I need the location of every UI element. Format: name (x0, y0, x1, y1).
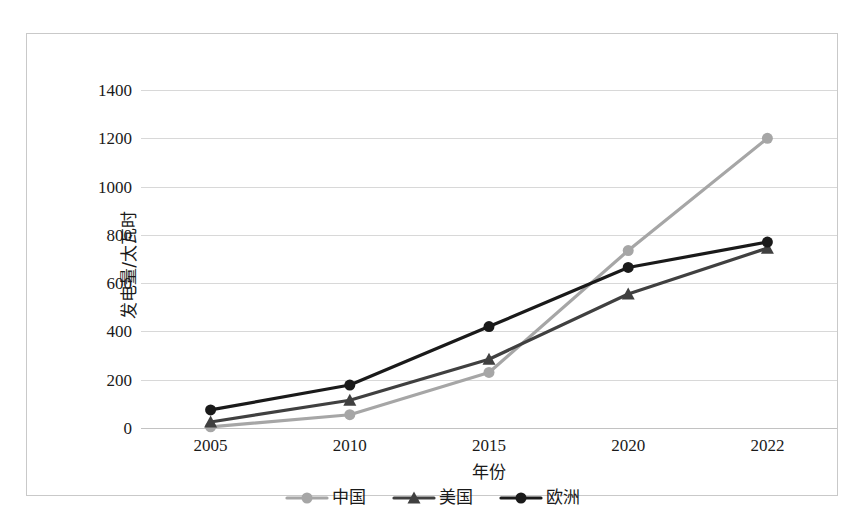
legend-entry[interactable]: 美国 (392, 489, 473, 506)
series-美国 (204, 242, 774, 428)
y-axis-tick-label: 0 (124, 420, 133, 437)
x-axis-tick-label: 2015 (472, 437, 506, 454)
x-axis-tick-label: 2020 (611, 437, 645, 454)
data-point-marker (344, 380, 355, 391)
series-lines (141, 90, 837, 428)
data-point-marker (484, 367, 495, 378)
series-欧洲 (205, 237, 773, 416)
chart-frame: 发电量/太瓦时 0200400600800100012001400 200520… (26, 33, 838, 496)
legend-triangle-marker-icon (392, 490, 436, 506)
y-axis-tick-label: 1000 (98, 178, 132, 195)
y-axis-tick-label: 1200 (98, 130, 132, 147)
x-axis-title: 年份 (141, 458, 837, 483)
legend-circle-marker-icon (285, 490, 329, 506)
gridline (141, 428, 837, 429)
y-axis-tick-label: 1400 (98, 82, 132, 99)
series-line (211, 138, 768, 427)
y-axis-tick-label: 400 (107, 323, 133, 340)
legend-entry[interactable]: 中国 (285, 489, 366, 506)
y-axis-tick-label: 200 (107, 371, 133, 388)
y-axis-tick-label: 800 (107, 226, 133, 243)
data-point-marker (344, 409, 355, 420)
data-point-marker (623, 245, 634, 256)
legend-entry[interactable]: 欧洲 (499, 489, 580, 506)
legend-label: 美国 (439, 489, 473, 506)
data-point-marker (762, 237, 773, 248)
series-中国 (205, 133, 773, 433)
x-axis-tick-label: 2010 (333, 437, 367, 454)
x-axis-tick-label: 2022 (750, 437, 784, 454)
legend-label: 欧洲 (546, 489, 580, 506)
legend-label: 中国 (332, 489, 366, 506)
data-point-marker (205, 404, 216, 415)
data-point-marker (762, 133, 773, 144)
legend-circle-marker-icon (499, 490, 543, 506)
data-point-marker (623, 262, 634, 273)
plot-area: 0200400600800100012001400 20052010201520… (141, 90, 837, 428)
data-point-marker (484, 321, 495, 332)
x-axis-tick-label: 2005 (194, 437, 228, 454)
y-axis-tick-label: 600 (107, 275, 133, 292)
chart-legend: 中国美国欧洲 (27, 489, 837, 506)
